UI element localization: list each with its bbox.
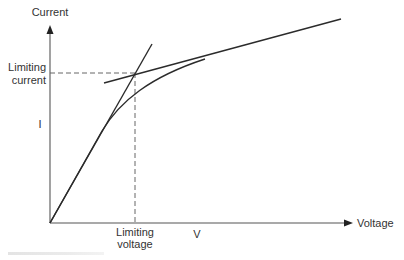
limiting-current-label-line1: Limiting <box>8 61 46 73</box>
labels: Current Voltage Limiting current I Limit… <box>8 6 394 250</box>
current-symbol-label: I <box>38 118 41 130</box>
x-axis-label: Voltage <box>357 217 394 229</box>
cropped-caption <box>8 252 104 255</box>
x-axis-arrow-icon <box>344 220 353 227</box>
iv-diagram: Current Voltage Limiting current I Limit… <box>0 0 404 260</box>
tangent-lines <box>50 19 341 223</box>
y-axis-label: Current <box>32 6 69 18</box>
limiting-voltage-label-line1: Limiting <box>116 226 154 238</box>
y-axis-arrow-icon <box>47 25 54 34</box>
saturation-tangent <box>104 19 341 83</box>
axes <box>47 25 354 227</box>
limiting-current-label-line2: current <box>12 74 46 86</box>
voltage-symbol-label: V <box>193 228 201 240</box>
limiting-voltage-label-line2: voltage <box>117 238 152 250</box>
iv-curve <box>50 59 205 223</box>
